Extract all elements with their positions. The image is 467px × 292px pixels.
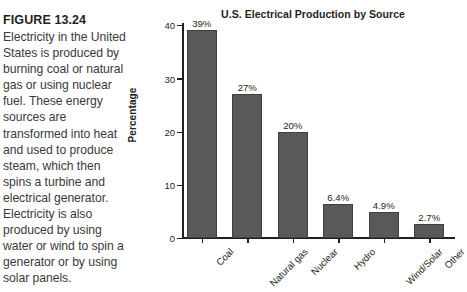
- x-axis-tick-mark: [202, 238, 203, 243]
- bar: 27%: [232, 94, 262, 238]
- y-axis-tick-label: 40: [164, 20, 175, 31]
- bar-value-label: 4.9%: [373, 200, 395, 211]
- y-axis-tick-mark: [177, 78, 182, 79]
- y-axis-tick-label: 20: [164, 127, 175, 138]
- bar: 6.4%: [323, 204, 353, 238]
- x-axis-tick-label: Wind/Solar: [403, 246, 444, 287]
- y-axis-tick: 20: [164, 123, 182, 141]
- bar-value-label: 20%: [283, 120, 302, 131]
- bar: 39%: [187, 30, 217, 238]
- y-axis-title: Percentage: [127, 60, 138, 170]
- bar-value-label: 27%: [238, 82, 257, 93]
- bar-chart: U.S. Electrical Production by Source Per…: [131, 0, 455, 292]
- figure-caption-block: FIGURE 13.24 Electricity in the United S…: [3, 12, 131, 287]
- y-axis-tick-label: 10: [164, 180, 175, 191]
- bar: 4.9%: [369, 212, 399, 238]
- x-axis-tick-label: Hydro: [352, 246, 378, 272]
- x-axis-tick-mark: [429, 238, 430, 243]
- y-axis-tick: 40: [164, 16, 182, 34]
- x-axis-tick-mark: [384, 238, 385, 243]
- x-axis-tick-label: Natural gas: [268, 246, 310, 288]
- x-axis-tick-mark: [338, 238, 339, 243]
- y-axis-tick: 30: [164, 69, 182, 87]
- figure-caption-text: Electricity in the United States is prod…: [3, 29, 131, 287]
- figure-number-label: FIGURE 13.24: [3, 12, 131, 28]
- y-axis-tick: 10: [164, 176, 182, 194]
- x-axis-tick-label: Coal: [214, 246, 236, 268]
- y-axis-tick-mark: [177, 185, 182, 186]
- y-axis-tick-label: 0: [170, 233, 175, 244]
- y-axis-tick-mark: [177, 25, 182, 26]
- bar: 20%: [278, 132, 308, 239]
- y-axis-tick-mark: [177, 132, 182, 133]
- y-axis-tick: 0: [170, 229, 182, 247]
- bar-value-label: 39%: [192, 18, 211, 29]
- x-axis-tick-label: Other: [442, 246, 467, 271]
- y-axis-tick-label: 30: [164, 74, 175, 85]
- plot-area: 01020304039%Coal27%Natural gas20%Nuclear…: [182, 25, 455, 238]
- bar-value-label: 6.4%: [327, 192, 349, 203]
- bar: 2.7%: [414, 224, 444, 238]
- x-axis-tick-mark: [293, 238, 294, 243]
- y-axis-tick-mark: [177, 238, 182, 239]
- x-axis-tick-label: Nuclear: [308, 246, 339, 277]
- bar-value-label: 2.7%: [418, 212, 440, 223]
- x-axis-tick-mark: [247, 238, 248, 243]
